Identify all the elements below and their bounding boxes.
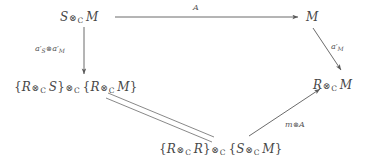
edge-label-bottom-right-arrow: m⊗A <box>285 120 305 129</box>
edge-label-top-arrow-text: A <box>193 3 199 12</box>
node-top-right-text: M <box>306 10 319 24</box>
double-line-upper <box>108 93 214 137</box>
edge-label-bottom-m: m <box>285 120 293 129</box>
node-top-left-text: S⊗C M <box>60 10 99 24</box>
node-bottom-left: {R⊗C S}⊗C {R⊗C M} <box>14 80 138 95</box>
commutative-diagram: S⊗C M M {R⊗C S}⊗C {R⊗C M} R⊗C M {R⊗C R}⊗… <box>0 0 386 166</box>
edge-label-top-arrow: A <box>193 3 199 12</box>
node-bottom-center: {R⊗C R}⊗C {S⊗C M} <box>159 142 283 157</box>
node-bottom-center-text: {R⊗C R}⊗C {S⊗C M} <box>159 142 283 156</box>
edge-label-left-arrow: a′S⊗a′M <box>35 44 65 54</box>
edge-label-left-sub-m: M <box>59 47 65 54</box>
edge-label-right-arrow: a′M <box>331 42 344 52</box>
node-top-right: M <box>306 10 319 24</box>
node-right-middle-text: R⊗C M <box>313 78 352 92</box>
edge-label-right-sub-m: M <box>338 45 344 52</box>
node-bottom-left-text: {R⊗C S}⊗C {R⊗C M} <box>14 80 138 94</box>
double-line-lower <box>106 98 212 142</box>
node-right-middle: R⊗C M <box>313 78 352 93</box>
edge-label-bottom-A: A <box>299 120 305 129</box>
node-top-left: S⊗C M <box>60 10 99 25</box>
